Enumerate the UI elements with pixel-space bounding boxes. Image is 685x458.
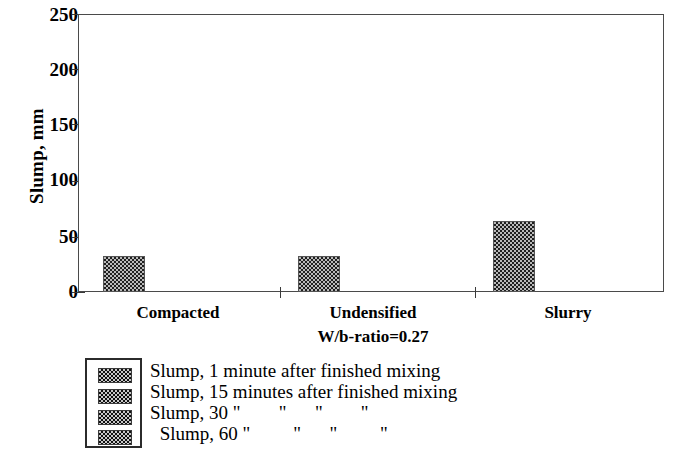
y-tick-label-50: 50	[10, 227, 78, 246]
legend-label-3: Slump, 30 " " " "	[150, 402, 368, 423]
y-tick-label-200: 200	[10, 60, 78, 79]
legend-swatch-3	[98, 410, 132, 425]
plot-area	[78, 14, 664, 292]
category-label-slurry: Slurry	[473, 303, 663, 323]
y-axis-labels: 250 200 150 100 50 0	[0, 0, 78, 458]
y-tick-label-100: 100	[10, 170, 78, 189]
category-label-compacted: Compacted	[83, 303, 273, 323]
legend-swatch-2	[98, 389, 132, 404]
legend-swatch-1	[98, 368, 132, 383]
legend-label-1: Slump, 1 minute after finished mixing	[150, 360, 440, 381]
legend-label-4: Slump, 60 " " " "	[155, 423, 388, 444]
legend-box	[85, 358, 142, 448]
y-tick-label-150: 150	[10, 115, 78, 134]
y-tick-label-250: 250	[10, 5, 78, 24]
bar-undensified[interactable]	[298, 256, 340, 292]
bar-slurry[interactable]	[493, 221, 535, 292]
category-separator-tick-2	[475, 287, 476, 298]
category-label-undensified: Undensified	[278, 303, 468, 323]
category-separator-tick-1	[280, 287, 281, 298]
x-axis-sublabel-wb-ratio: W/b-ratio=0.27	[278, 327, 468, 347]
legend-label-2: Slump, 15 minutes after finished mixing	[150, 381, 457, 402]
y-tick-label-0: 0	[10, 282, 78, 301]
legend-swatch-4	[98, 430, 132, 445]
y-tick-mark-0	[72, 292, 85, 293]
slump-bar-chart: Slump, mm 250 200 150 100 50 0 Compacted…	[0, 0, 685, 458]
bar-compacted[interactable]	[103, 256, 145, 292]
